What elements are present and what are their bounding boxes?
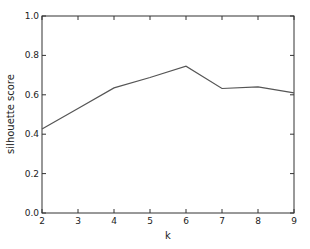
- x-tick-label: 2: [39, 216, 45, 226]
- x-tick-label: 7: [219, 216, 225, 226]
- x-tick-label: 9: [291, 216, 297, 226]
- y-tick-label: 0.6: [25, 90, 40, 100]
- y-tick-label: 1.0: [25, 11, 40, 21]
- x-tick-label: 5: [147, 216, 153, 226]
- x-tick-label: 3: [75, 216, 81, 226]
- x-tick-label: 8: [255, 216, 261, 226]
- y-tick-label: 0.4: [25, 129, 40, 139]
- y-tick-label: 0.0: [25, 208, 40, 218]
- plot-area: [42, 16, 294, 213]
- y-tick-label: 0.2: [25, 169, 39, 179]
- x-tick-label: 4: [111, 216, 117, 226]
- x-axis-label: k: [165, 230, 171, 241]
- y-tick-label: 0.8: [25, 50, 40, 60]
- y-axis-label: silhouette score: [5, 74, 16, 154]
- x-tick-label: 6: [183, 216, 189, 226]
- line-chart: 0.00.20.40.60.81.0 23456789 k silhouette…: [0, 0, 310, 249]
